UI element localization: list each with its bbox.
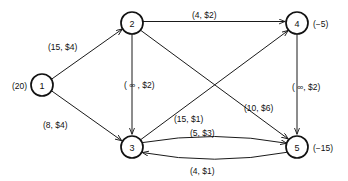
edge-label-3-4: (15, $1): [174, 114, 203, 124]
node-4-label: 4: [294, 19, 299, 29]
node-4-supply-label: (−5): [313, 19, 329, 29]
edge-label-2-5: (10, $6): [244, 103, 273, 113]
edge-1-to-2: [52, 29, 122, 79]
node-1-label: 1: [39, 81, 44, 91]
edge-1-to-3: [52, 91, 122, 141]
edge-label-2-4: (4, $2): [192, 10, 217, 20]
network-flow-diagram: (15, $4) (8, $4) (4, $2) ( ∞ , $2) (10, …: [0, 0, 348, 181]
node-3[interactable]: 3: [121, 136, 143, 158]
node-3-label: 3: [129, 143, 134, 153]
edge-label-2-3: ( ∞ , $2): [124, 80, 155, 90]
edges-layer: [52, 22, 297, 160]
edge-label-3-5: (5, $3): [190, 128, 215, 138]
node-5-label: 5: [294, 143, 299, 153]
edge-5-to-3-lower: [143, 152, 287, 159]
node-1[interactable]: 1: [31, 74, 53, 96]
node-2[interactable]: 2: [121, 12, 143, 34]
node-4[interactable]: 4: [286, 12, 308, 34]
network-graph-canvas: (15, $4) (8, $4) (4, $2) ( ∞ , $2) (10, …: [0, 0, 348, 181]
node-5-supply-label: (−15): [313, 143, 333, 153]
edge-label-1-2: (15, $4): [48, 42, 77, 52]
edge-label-4-5: ( ∞, $2): [292, 82, 320, 92]
edge-labels-layer: (15, $4) (8, $4) (4, $2) ( ∞ , $2) (10, …: [43, 10, 320, 176]
node-5[interactable]: 5: [286, 136, 308, 158]
node-1-supply-label: (20): [12, 81, 27, 91]
edge-label-1-3: (8, $4): [43, 120, 68, 130]
node-2-label: 2: [129, 19, 134, 29]
edge-label-5-3: (4, $1): [190, 166, 215, 176]
